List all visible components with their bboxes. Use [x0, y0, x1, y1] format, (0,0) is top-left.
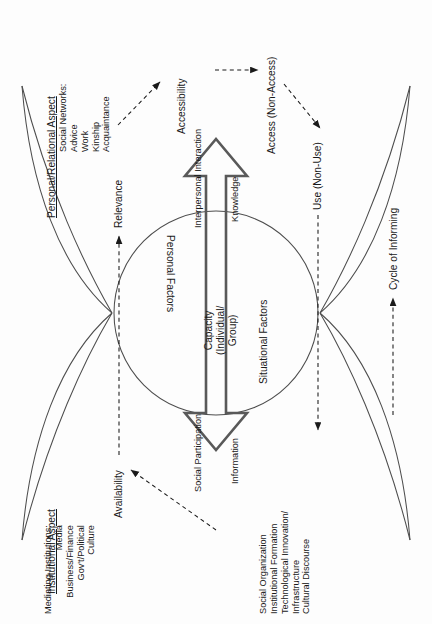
accessibility-label: Accessibility: [176, 79, 188, 134]
knowledge-label: Knowledge: [230, 177, 241, 222]
social-participation-label: Social Participation: [193, 414, 204, 492]
access-label: Access (Non-Access): [266, 57, 278, 154]
access-to-use: [284, 84, 320, 128]
personal-aspect-header: Personal/Relational Aspect: [46, 96, 58, 218]
information-label: Information: [230, 438, 241, 484]
personal-factors-label: Personal Factors: [164, 235, 176, 312]
availability-label: Availability: [113, 470, 125, 518]
cycle-of-informing-label: Cycle of Informing: [388, 208, 400, 290]
use-label: Use (Non-Use): [312, 142, 324, 210]
relevance-label: Relevance: [113, 180, 125, 228]
vesica-arcs: [22, 86, 112, 540]
relevance-to-accessibility: [118, 82, 160, 125]
diagram-canvas: Personal/Relational Aspect Social Networ…: [0, 0, 432, 624]
social-networks-list: Social Networks: Advice Work Kinship Acq…: [58, 84, 112, 152]
vesica-arcs-right: [320, 86, 410, 540]
situational-factors-label: Situational Factors: [258, 300, 270, 384]
institutional-outcomes-list: Social Organization Institutional Format…: [258, 511, 312, 614]
capacity-label: Capacity (Individual/ Group): [203, 306, 239, 355]
interpersonal-interaction-label: Interpersonal Interaction: [193, 129, 204, 228]
mediating-institutions-list: Mediating Institutions: Media Business/F…: [43, 525, 97, 614]
